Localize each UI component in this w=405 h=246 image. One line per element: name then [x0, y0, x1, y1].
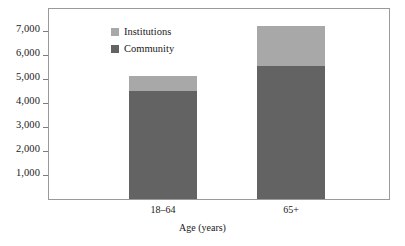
y-tick-label-3000: 3,000	[16, 119, 40, 130]
y-tick-label-5000: 5,000	[16, 71, 40, 82]
legend-swatch-institutions	[111, 28, 119, 36]
y-tick-label-7000: 7,000	[16, 23, 40, 34]
y-tick-label-2000: 2,000	[16, 143, 40, 154]
bar-18-64	[129, 9, 197, 199]
x-tick-label-18-64: 18–64	[151, 204, 176, 216]
y-tick-label-1000: 1,000	[16, 167, 40, 178]
y-tick-label-6000: 6,000	[16, 47, 40, 58]
legend-swatch-community	[111, 45, 119, 53]
bar-segment-community-65-plus	[257, 66, 325, 199]
x-tick-label-65-plus: 65+	[283, 204, 299, 216]
bar-segment-community-18-64	[129, 91, 197, 199]
x-axis-title: Age (years)	[0, 222, 405, 234]
y-tick-label-4000: 4,000	[16, 95, 40, 106]
stacked-bar-chart: Institutions Community 7,0006,0005,0004,…	[0, 0, 405, 246]
bar-segment-institutions-18-64	[129, 76, 197, 90]
bar-65-plus	[257, 9, 325, 199]
bar-segment-institutions-65-plus	[257, 26, 325, 66]
plot-area: Institutions Community	[48, 8, 390, 200]
